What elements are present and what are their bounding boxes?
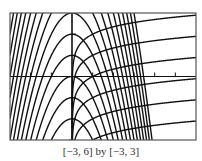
- window-caption: [−3, 6] by [−3, 3]: [0, 145, 202, 157]
- graph-plot: [0, 0, 202, 145]
